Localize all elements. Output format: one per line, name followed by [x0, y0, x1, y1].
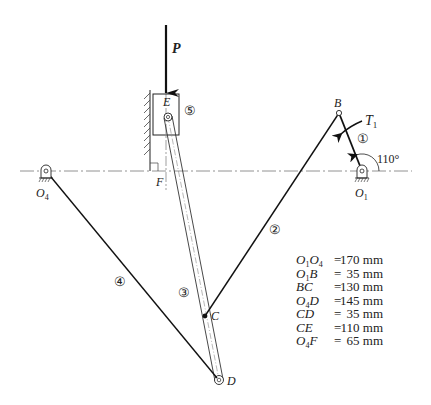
force-label: P	[172, 41, 181, 56]
torque-label: T1	[365, 113, 377, 130]
link-label-3: ③	[178, 285, 190, 300]
joint-c	[203, 314, 208, 319]
svg-text:=: =	[334, 333, 341, 348]
pivot-e	[164, 113, 172, 121]
angle-label: 110°	[377, 152, 400, 166]
ground-pivot-o1	[355, 165, 369, 182]
link-2	[205, 113, 339, 316]
ground-pivot-o4	[39, 165, 53, 182]
link-label-1: ①	[357, 131, 369, 146]
svg-text:O4F: O4F	[296, 333, 318, 350]
label-d: D	[226, 374, 236, 388]
link-label-4: ④	[114, 274, 126, 289]
svg-text:=: =	[334, 306, 341, 321]
label-f: F	[155, 175, 164, 189]
label-b: B	[334, 96, 342, 110]
svg-text:35 mm: 35 mm	[347, 306, 383, 321]
label-c: C	[211, 309, 220, 323]
label-o1: O1	[355, 186, 368, 202]
mechanism-diagram: P	[0, 0, 431, 405]
slider-guide-wall	[144, 90, 158, 171]
link-4	[46, 171, 217, 378]
label-e: E	[162, 95, 171, 109]
svg-text:65 mm: 65 mm	[347, 333, 383, 348]
label-o4: O4	[36, 186, 49, 202]
svg-text:BC: BC	[296, 279, 313, 294]
pivot-b	[336, 110, 341, 115]
link-label-2: ②	[269, 222, 281, 237]
svg-text:170 mm: 170 mm	[340, 252, 383, 267]
link-3-rod	[164, 116, 223, 381]
link-label-5: ⑤	[184, 103, 196, 118]
dimensions-table: O1O4 = 170 mm O1B = 35 mm BC = 130 mm O4…	[296, 252, 383, 350]
svg-text:CD: CD	[296, 306, 315, 321]
svg-text:130 mm: 130 mm	[340, 279, 383, 294]
